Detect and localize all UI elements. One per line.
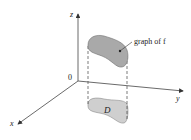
x-axis	[18, 81, 78, 124]
surface-graph	[88, 35, 128, 67]
y-axis	[78, 81, 183, 91]
surface-point-marker	[119, 50, 121, 52]
surface-label: graph of f	[134, 37, 166, 46]
origin-label: 0	[68, 73, 72, 82]
z-axis-label: z	[69, 10, 74, 19]
y-axis-label: y	[175, 94, 180, 103]
3d-axes-diagram: z y x 0 graph of f D	[0, 0, 191, 140]
diagram-canvas: z y x 0 graph of f D	[0, 0, 191, 140]
domain-label: D	[103, 105, 111, 115]
x-axis-label: x	[9, 119, 14, 128]
